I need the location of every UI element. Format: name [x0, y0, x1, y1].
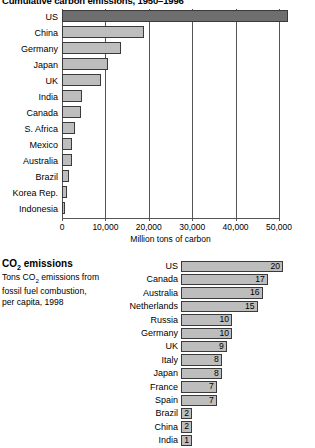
chart1-bar: [62, 202, 65, 214]
chart1-x-tick: [236, 218, 237, 221]
chart2-bar-row: UK9: [181, 340, 283, 353]
chart1-x-tick: [279, 218, 280, 221]
chart1-bar: [62, 138, 72, 150]
chart2-value-label: 7: [181, 381, 217, 392]
chart1-category-label: Germany: [21, 41, 58, 57]
chart1-bar-row: UK: [62, 73, 279, 89]
chart2-category-label: Australia: [143, 287, 178, 300]
chart2-bar-row: France7: [181, 381, 283, 394]
chart2-category-label: Germany: [141, 327, 178, 340]
chart1-x-tick: [105, 218, 106, 221]
chart2-bar-row: Italy8: [181, 354, 283, 367]
chart2-category-label: Spain: [155, 394, 178, 407]
chart1-bar: [62, 58, 108, 70]
chart2-value-label: 9: [181, 341, 227, 352]
chart1-bar: [62, 170, 69, 182]
chart2-bar-row: US20: [181, 260, 283, 273]
chart2-value-label: 10: [181, 328, 232, 339]
chart1-bar-row: US: [62, 9, 279, 25]
chart1-bar: [62, 106, 81, 118]
chart1-x-tick-label: 10,000: [92, 222, 118, 232]
chart2-value-label: 8: [181, 354, 222, 365]
chart2-category-label: France: [150, 381, 178, 394]
chart1-category-label: Korea Rep.: [12, 185, 58, 201]
chart2-title-tail: emissions: [21, 258, 73, 269]
chart2-subtitle-part1: Tons CO: [2, 272, 35, 282]
chart1-x-tick: [149, 218, 150, 221]
chart1-category-label: UK: [45, 73, 58, 89]
chart2-bar-row: Germany10: [181, 327, 283, 340]
chart2-value-label: 2: [181, 408, 192, 419]
chart1-bar-row: Korea Rep.: [62, 185, 279, 201]
chart1-bar-row: S. Africa: [62, 121, 279, 137]
chart1-bar: [62, 26, 144, 38]
chart1-bar-row: India: [62, 89, 279, 105]
chart1-category-label: Indonesia: [19, 201, 58, 217]
chart2-bar-row: Netherlands15: [181, 300, 283, 313]
chart1-category-label: China: [34, 25, 58, 41]
chart1-x-tick-label: 50,000: [266, 222, 292, 232]
chart2-category-label: Canada: [146, 273, 178, 286]
chart1-bar-row: China: [62, 25, 279, 41]
chart1-x-axis-label: Million tons of carbon: [62, 234, 279, 244]
chart1-bar: [62, 42, 121, 54]
chart2-subtitle-line3: per capita, 1998: [2, 297, 64, 307]
chart2-bar-row: Brazil2: [181, 407, 283, 420]
chart1-bar: [62, 186, 67, 198]
chart1-bar-row: Canada: [62, 105, 279, 121]
chart1-category-label: Brazil: [35, 169, 58, 185]
chart2-bar-row: Australia16: [181, 287, 283, 300]
chart2-bar-row: India1: [181, 434, 283, 447]
chart2-value-label: 1: [181, 435, 192, 446]
chart1-bar: [62, 10, 288, 22]
chart1-category-label: US: [45, 9, 58, 25]
chart1-bar-row: Brazil: [62, 169, 279, 185]
chart1-bar-row: Indonesia: [62, 201, 279, 217]
chart1-category-label: Australia: [23, 153, 58, 169]
chart1-x-tick-label: 0: [60, 222, 65, 232]
chart2-category-label: UK: [165, 340, 178, 353]
chart2-bar-row: Russia10: [181, 314, 283, 327]
chart1-category-label: India: [38, 89, 58, 105]
chart2-category-label: Russia: [150, 314, 178, 327]
chart2-category-label: Italy: [161, 354, 178, 367]
chart1-bar: [62, 122, 75, 134]
chart2-bar-row: Spain7: [181, 394, 283, 407]
chart2-category-label: India: [158, 434, 178, 447]
chart2-category-label: US: [165, 260, 178, 273]
chart1-x-tick: [192, 218, 193, 221]
chart1-x-tick: [62, 218, 63, 221]
chart2-category-label: Japan: [153, 367, 178, 380]
chart2-category-label: Netherlands: [129, 300, 178, 313]
cumulative-carbon-emissions-chart: Cumulative carbon emissions, 1950–1996 U…: [0, 0, 315, 250]
chart1-category-label: Japan: [33, 57, 58, 73]
chart1-bar-row: Mexico: [62, 137, 279, 153]
chart1-bar-row: Japan: [62, 57, 279, 73]
chart2-value-label: 16: [181, 287, 263, 298]
chart1-plot-area: USChinaGermanyJapanUKIndiaCanadaS. Afric…: [62, 9, 279, 218]
chart1-bar-row: Germany: [62, 41, 279, 57]
chart1-x-axis: [62, 218, 279, 219]
chart1-category-label: Mexico: [29, 137, 58, 153]
chart2-bar-row: Canada17: [181, 273, 283, 286]
chart1-category-label: S. Africa: [24, 121, 58, 137]
chart1-x-tick-label: 30,000: [179, 222, 205, 232]
chart1-gridline: [279, 9, 280, 218]
chart2-category-label: China: [154, 421, 178, 434]
chart1-bar: [62, 90, 82, 102]
chart2-subtitle: Tons CO2 emissions fromfossil fuel combu…: [2, 272, 107, 308]
chart1-title: Cumulative carbon emissions, 1950–1996: [2, 0, 184, 6]
chart2-subtitle-part2: emissions from: [39, 272, 99, 282]
co2-emissions-per-capita-chart: CO2 emissions Tons CO2 emissions fromfos…: [0, 258, 315, 445]
chart2-plot-area: US20Canada17Australia16Netherlands15Russ…: [181, 260, 315, 445]
chart1-bar: [62, 74, 101, 86]
chart2-category-label: Brazil: [155, 407, 178, 420]
chart2-value-label: 17: [181, 274, 268, 285]
chart2-value-label: 8: [181, 368, 222, 379]
chart1-bar: [62, 154, 72, 166]
chart2-subtitle-line2: fossil fuel combustion,: [2, 286, 87, 296]
chart2-value-label: 15: [181, 301, 258, 312]
chart1-category-label: Canada: [26, 105, 58, 121]
chart2-value-label: 20: [181, 261, 283, 272]
chart2-title-main: CO: [2, 258, 17, 269]
